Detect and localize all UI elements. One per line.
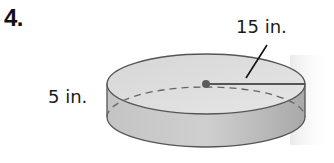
- radius-label: 15 in.: [236, 16, 287, 37]
- center-point: [202, 80, 210, 88]
- problem-number: 4.: [4, 4, 23, 32]
- height-label: 5 in.: [48, 86, 87, 107]
- diagram-stage: 4. 15 in. 5 in.: [0, 0, 334, 163]
